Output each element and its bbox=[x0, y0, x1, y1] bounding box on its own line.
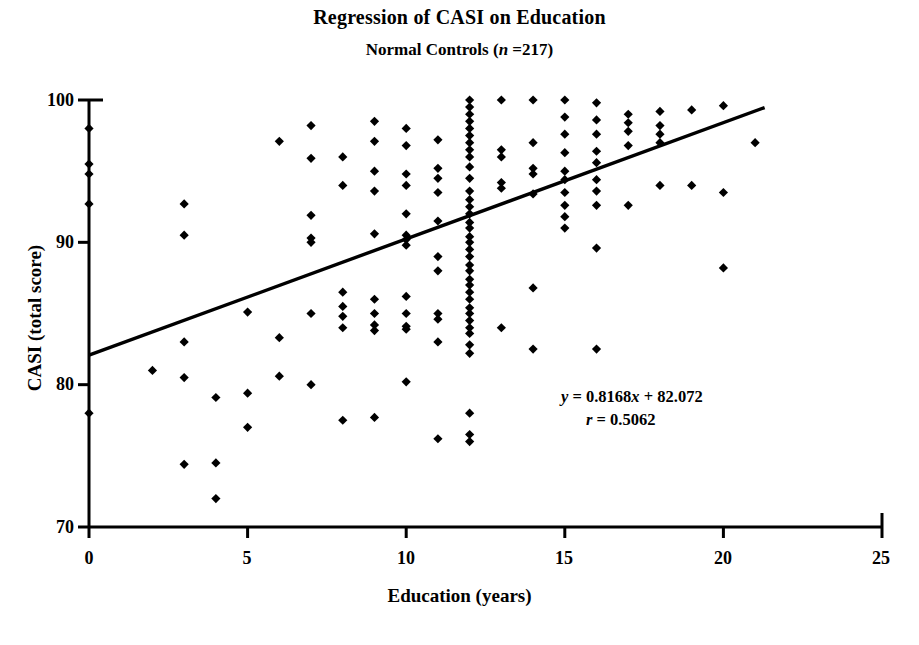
scatter-point bbox=[433, 164, 442, 173]
scatter-point bbox=[465, 174, 474, 183]
scatter-point bbox=[370, 137, 379, 146]
scatter-point bbox=[433, 135, 442, 144]
scatter-point bbox=[370, 167, 379, 176]
scatter-point bbox=[433, 266, 442, 275]
scatter-point bbox=[402, 169, 411, 178]
scatter-point bbox=[338, 312, 347, 321]
scatter-point bbox=[592, 98, 601, 107]
scatter-point bbox=[592, 243, 601, 252]
scatter-point bbox=[592, 158, 601, 167]
scatter-point bbox=[497, 95, 506, 104]
scatter-point bbox=[465, 349, 474, 358]
scatter-point bbox=[275, 372, 284, 381]
scatter-point bbox=[592, 147, 601, 156]
scatter-point bbox=[687, 181, 696, 190]
scatter-point bbox=[560, 188, 569, 197]
scatter-point bbox=[275, 333, 284, 342]
scatter-point bbox=[306, 309, 315, 318]
scatter-point bbox=[465, 152, 474, 161]
scatter-point bbox=[560, 224, 569, 233]
scatter-point bbox=[84, 199, 93, 208]
scatter-point bbox=[592, 175, 601, 184]
scatter-point bbox=[655, 107, 664, 116]
scatter-point bbox=[655, 181, 664, 190]
scatter-point bbox=[84, 124, 93, 133]
scatter-point bbox=[560, 95, 569, 104]
scatter-point bbox=[497, 152, 506, 161]
scatter-point bbox=[592, 344, 601, 353]
scatter-point bbox=[306, 211, 315, 220]
scatter-point bbox=[402, 141, 411, 150]
scatter-point bbox=[465, 224, 474, 233]
scatter-point bbox=[655, 130, 664, 139]
scatter-point bbox=[180, 231, 189, 240]
scatter-point bbox=[243, 423, 252, 432]
scatter-point bbox=[528, 283, 537, 292]
scatter-point bbox=[370, 413, 379, 422]
scatter-point bbox=[211, 494, 220, 503]
scatter-point bbox=[528, 95, 537, 104]
scatter-point bbox=[624, 110, 633, 119]
scatter-point bbox=[528, 138, 537, 147]
scatter-point bbox=[180, 199, 189, 208]
scatter-point bbox=[433, 434, 442, 443]
scatter-point bbox=[433, 188, 442, 197]
scatter-point bbox=[338, 152, 347, 161]
scatter-point bbox=[528, 344, 537, 353]
scatter-point bbox=[84, 159, 93, 168]
scatter-point bbox=[465, 437, 474, 446]
scatter-point bbox=[465, 409, 474, 418]
scatter-point bbox=[719, 188, 728, 197]
scatter-point bbox=[433, 174, 442, 183]
chart-figure: Regression of CASI on Education Normal C… bbox=[0, 0, 919, 645]
scatter-point bbox=[433, 216, 442, 225]
scatter-point bbox=[560, 130, 569, 139]
scatter-point bbox=[624, 201, 633, 210]
scatter-point bbox=[180, 373, 189, 382]
scatter-point bbox=[465, 252, 474, 261]
scatter-point bbox=[338, 416, 347, 425]
scatter-point bbox=[592, 201, 601, 210]
scatter-points-group bbox=[84, 95, 759, 503]
axes-group bbox=[78, 100, 882, 538]
scatter-point bbox=[465, 329, 474, 338]
scatter-point bbox=[275, 137, 284, 146]
scatter-point bbox=[465, 340, 474, 349]
scatter-point bbox=[370, 186, 379, 195]
scatter-point bbox=[402, 309, 411, 318]
scatter-point bbox=[211, 393, 220, 402]
scatter-point bbox=[370, 117, 379, 126]
scatter-point bbox=[370, 326, 379, 335]
scatter-point bbox=[687, 105, 696, 114]
scatter-point bbox=[306, 121, 315, 130]
scatter-point bbox=[497, 323, 506, 332]
scatter-point bbox=[211, 458, 220, 467]
scatter-point bbox=[370, 309, 379, 318]
scatter-point bbox=[719, 263, 728, 272]
scatter-point bbox=[624, 127, 633, 136]
scatter-point bbox=[402, 241, 411, 250]
scatter-point bbox=[370, 229, 379, 238]
scatter-point bbox=[751, 138, 760, 147]
scatter-point bbox=[338, 181, 347, 190]
scatter-point bbox=[84, 409, 93, 418]
scatter-point bbox=[592, 130, 601, 139]
scatter-point bbox=[560, 148, 569, 157]
scatter-point bbox=[306, 380, 315, 389]
scatter-point bbox=[624, 118, 633, 127]
scatter-point bbox=[465, 186, 474, 195]
regression-fit-line bbox=[89, 108, 765, 356]
scatter-point bbox=[402, 209, 411, 218]
scatter-point bbox=[402, 124, 411, 133]
scatter-point bbox=[402, 181, 411, 190]
scatter-point bbox=[624, 141, 633, 150]
scatter-point bbox=[528, 169, 537, 178]
scatter-point bbox=[180, 460, 189, 469]
scatter-point bbox=[560, 201, 569, 210]
scatter-point bbox=[655, 121, 664, 130]
plot-area bbox=[0, 0, 919, 645]
scatter-point bbox=[180, 337, 189, 346]
scatter-point bbox=[560, 112, 569, 121]
scatter-point bbox=[84, 169, 93, 178]
scatter-point bbox=[433, 337, 442, 346]
